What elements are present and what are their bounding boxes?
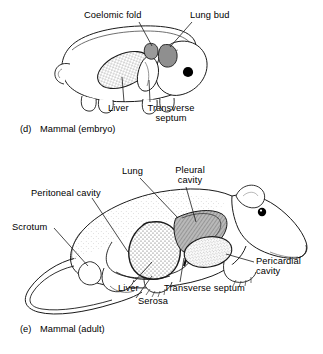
- label-lung: Lung: [122, 166, 143, 176]
- label-transverse-septum-adult: Transverse septum: [164, 283, 245, 293]
- label-lung-bud: Lung bud: [190, 10, 230, 20]
- embryo-lung-bud: [158, 44, 177, 67]
- label-liver-adult: Liver: [118, 283, 139, 293]
- embryo-drawing: [55, 22, 207, 114]
- label-transverse-septum-embryo: Transverse septum: [140, 103, 202, 124]
- label-serosa: Serosa: [138, 296, 168, 306]
- label-pleural-cavity: Pleural cavity: [166, 165, 214, 186]
- caption-tag-e: (e): [20, 324, 40, 335]
- anatomy-figure: Coelomic fold Lung bud Liver Transverse …: [0, 0, 323, 354]
- embryo-coelomic-fold: [144, 43, 158, 59]
- label-liver-embryo: Liver: [108, 103, 129, 113]
- adult-eye-dot: [258, 208, 266, 216]
- label-pericardial-cavity: Pericardial cavity: [256, 256, 314, 277]
- adult-scrotum: [78, 262, 101, 285]
- adult-eye-highlight: [260, 210, 262, 212]
- label-peritoneal-cavity: Peritoneal cavity: [31, 188, 101, 198]
- label-scrotum: Scrotum: [12, 222, 47, 232]
- caption-panel-e: (e)Mammal (adult): [20, 324, 105, 335]
- caption-panel-d: (d)Mammal (embryo): [20, 124, 115, 135]
- caption-text-e: Mammal (adult): [40, 324, 105, 334]
- caption-tag-d: (d): [20, 124, 40, 135]
- label-coelomic-fold: Coelomic fold: [84, 10, 142, 20]
- caption-text-d: Mammal (embryo): [40, 124, 115, 134]
- embryo-eye-dot: [183, 67, 193, 77]
